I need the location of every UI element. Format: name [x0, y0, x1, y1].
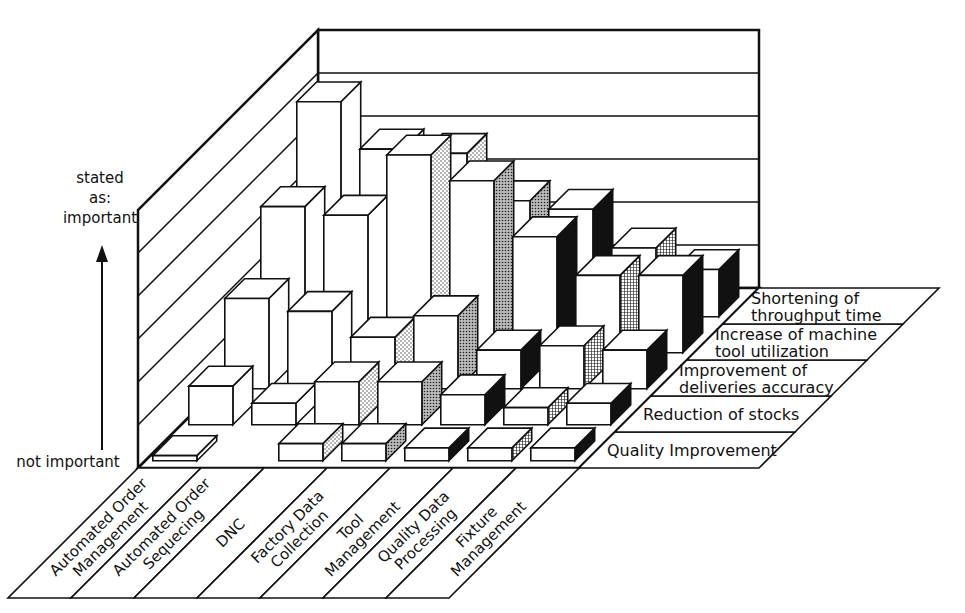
y-label-not-important: not important [16, 453, 120, 471]
bar-front [468, 448, 512, 461]
bar-front [378, 382, 422, 425]
bar-front [279, 444, 323, 461]
bar-front [153, 456, 197, 461]
series-label: tool utilization [715, 342, 829, 361]
series-label: throughput time [751, 306, 882, 325]
chart-3d-bar: Quality ImprovementReduction of stocksIm… [0, 0, 965, 613]
bar [315, 362, 379, 425]
bar-front [405, 448, 449, 461]
bar-front [252, 403, 296, 425]
bar-front [531, 448, 575, 461]
y-label-important: important [63, 209, 137, 227]
bar-side [494, 161, 514, 353]
bar [540, 326, 604, 389]
arrow-up-icon [96, 245, 108, 262]
y-label-important: as: [89, 189, 111, 207]
series-label: Quality Improvement [607, 441, 777, 460]
y-label-important: stated [76, 169, 124, 187]
bar-front [567, 403, 611, 425]
bar-front [540, 346, 584, 389]
series-label: Reduction of stocks [643, 405, 799, 424]
bar-front [189, 386, 233, 425]
bar-front [504, 408, 548, 425]
bar-front [441, 395, 485, 425]
bar [378, 362, 442, 425]
bar-front [342, 444, 386, 461]
bar-front [315, 382, 359, 425]
series-label: deliveries accuracy [679, 378, 834, 397]
